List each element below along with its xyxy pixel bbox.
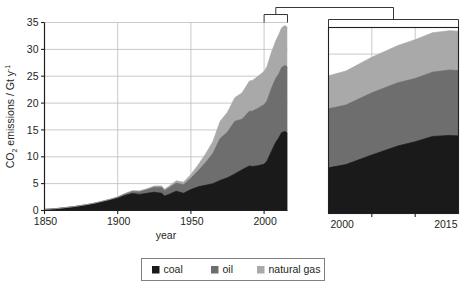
co2-emissions-figure: 051015202530351850190019502000yearCO2 em… bbox=[0, 0, 466, 293]
legend-label-natural-gas: natural gas bbox=[269, 263, 321, 275]
inset-x-tick-label: 2000 bbox=[331, 218, 355, 230]
main-panel: 051015202530351850190019502000yearCO2 em… bbox=[4, 16, 288, 240]
legend-swatch-oil bbox=[211, 266, 219, 274]
chart-svg: 051015202530351850190019502000yearCO2 em… bbox=[0, 0, 466, 293]
x-tick-label: 2000 bbox=[253, 215, 277, 227]
main-stacked-areas bbox=[45, 26, 288, 211]
y-axis-ticks: 05101520253035 bbox=[27, 16, 45, 216]
y-tick-label: 30 bbox=[27, 43, 39, 55]
y-tick-label: 20 bbox=[27, 97, 39, 109]
x-axis-title: year bbox=[156, 229, 177, 241]
inset-x-ticks: 20002015 bbox=[331, 214, 458, 230]
legend-label-oil: oil bbox=[223, 263, 234, 275]
y-tick-label: 35 bbox=[27, 16, 39, 28]
inset-x-tick-label: 2015 bbox=[434, 218, 458, 230]
legend-label-coal: coal bbox=[164, 263, 183, 275]
legend-swatch-natural-gas bbox=[257, 266, 265, 274]
connector-hat bbox=[276, 8, 394, 20]
zoom-connector bbox=[264, 8, 458, 28]
y-axis-title: CO2 emissions / Gt y-1 bbox=[4, 65, 18, 169]
y-tick-label: 25 bbox=[27, 70, 39, 82]
y-tick-label: 5 bbox=[33, 177, 39, 189]
x-tick-label: 1950 bbox=[180, 215, 204, 227]
x-axis-ticks: 1850190019502000 bbox=[34, 211, 277, 227]
x-tick-label: 1900 bbox=[107, 215, 131, 227]
inset-bracket bbox=[329, 20, 459, 28]
legend-swatch-coal bbox=[152, 266, 160, 274]
x-tick-label: 1850 bbox=[34, 215, 58, 227]
y-tick-label: 15 bbox=[27, 124, 39, 136]
source-bracket bbox=[264, 15, 287, 23]
y-tick-label: 10 bbox=[27, 150, 39, 162]
legend: coaloilnatural gas bbox=[142, 259, 325, 281]
